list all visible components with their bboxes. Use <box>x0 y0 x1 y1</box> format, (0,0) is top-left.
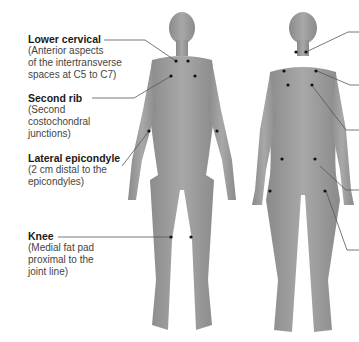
label-lower-cervical: Lower cervical (Anterior aspects of the … <box>28 33 122 81</box>
label-desc: (Second <box>28 104 90 116</box>
label-desc: costochondral <box>28 116 90 128</box>
label-desc: proximal to the <box>28 254 94 266</box>
label-desc: of the intertransverse <box>28 57 122 69</box>
label-knee: Knee (Medial fat pad proximal to the joi… <box>28 230 94 278</box>
label-desc: joint line) <box>28 266 94 278</box>
label-lateral-epicondyle: Lateral epicondyle (2 cm distal to the e… <box>28 152 120 188</box>
label-desc: (2 cm distal to the <box>28 164 120 176</box>
label-desc: spaces at C5 to C7) <box>28 69 122 81</box>
back-figure <box>252 12 354 332</box>
label-desc: (Medial fat pad <box>28 242 94 254</box>
front-figure <box>128 12 236 330</box>
label-desc: epicondyles) <box>28 176 120 188</box>
label-desc: (Anterior aspects <box>28 45 122 57</box>
label-title: Second rib <box>28 92 90 104</box>
label-title: Knee <box>28 230 94 242</box>
label-title: Lateral epicondyle <box>28 152 120 164</box>
label-second-rib: Second rib (Second costochondral junctio… <box>28 92 90 140</box>
label-title: Lower cervical <box>28 33 122 45</box>
label-desc: junctions) <box>28 128 90 140</box>
